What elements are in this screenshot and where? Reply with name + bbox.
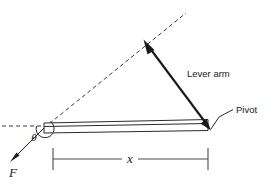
force-vector xyxy=(10,128,44,162)
angle-label: θ xyxy=(31,131,37,143)
distance-label: x xyxy=(126,151,133,166)
diagram-canvas: F θ Lever arm Pivot x xyxy=(0,0,275,184)
pivot-label: Pivot xyxy=(236,104,257,115)
torque-lever-diagram: F θ Lever arm Pivot x xyxy=(0,0,275,184)
force-vector-shaft xyxy=(15,128,45,158)
lever-arm-label: Lever arm xyxy=(187,68,230,79)
lever-arm-vector xyxy=(144,40,212,131)
force-line-of-action-dashed xyxy=(44,13,186,128)
force-label: F xyxy=(8,165,18,180)
lever-arm-shaft xyxy=(149,47,207,124)
pivot-leader-line xyxy=(211,110,233,130)
lever-beam xyxy=(44,120,208,134)
